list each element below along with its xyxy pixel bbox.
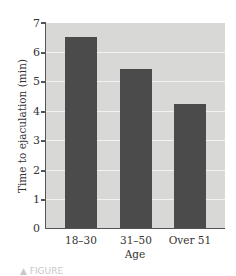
y-tick-5 [41, 81, 46, 83]
y-tick-label-4: 4 [26, 106, 40, 117]
y-tick-6 [41, 52, 46, 54]
bar-31-50 [120, 69, 152, 228]
figure-caption: ▲ FIGURE [20, 266, 236, 276]
y-tick-label-2: 2 [26, 165, 40, 176]
y-tick-label-1: 1 [26, 194, 40, 205]
y-tick-label-7: 7 [26, 18, 40, 29]
y-tick-label-5: 5 [26, 76, 40, 87]
x-tick-label-over-51: Over 51 [160, 234, 220, 246]
x-tick-label-31-50: 31–50 [106, 234, 166, 246]
y-tick-label-0: 0 [26, 223, 40, 234]
plot-area [45, 23, 225, 229]
y-axis-label: Time to ejaculation (min) [15, 31, 29, 221]
bar-over-51 [174, 104, 206, 228]
y-tick-4 [41, 111, 46, 113]
y-tick-7 [41, 22, 46, 24]
bar-18-30 [65, 37, 97, 228]
x-tick-label-18-30: 18–30 [51, 234, 111, 246]
y-tick-1 [41, 199, 46, 201]
y-tick-3 [41, 140, 46, 142]
x-axis-label: Age [105, 248, 165, 260]
y-tick-2 [41, 170, 46, 172]
y-tick-label-6: 6 [26, 47, 40, 58]
y-tick-label-3: 3 [26, 135, 40, 146]
